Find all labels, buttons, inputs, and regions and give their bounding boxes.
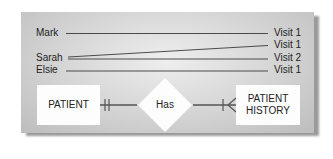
link-sarah-visit1 [68,46,268,58]
visit-label: Visit 1 [274,39,301,51]
one-and-only-one-connector [100,99,137,111]
relationship-label: Has [145,99,185,110]
entity-patient-history: PATIENT HISTORY [236,85,300,125]
entity-patient-history-line1: PATIENT [248,93,289,105]
visit-label: Visit 1 [274,64,301,76]
entity-patient-label: PATIENT [48,99,89,111]
patient-label-sarah: Sarah [36,52,63,64]
patient-label-elsie: Elsie [36,64,58,76]
visit-label: Visit 2 [274,52,301,64]
diagram-lines [0,0,333,159]
one-or-many-connector [193,98,236,112]
entity-patient-history-line2: HISTORY [246,105,290,117]
entity-patient: PATIENT [37,85,100,125]
visit-label: Visit 1 [274,27,301,39]
patient-label-mark: Mark [36,27,58,39]
